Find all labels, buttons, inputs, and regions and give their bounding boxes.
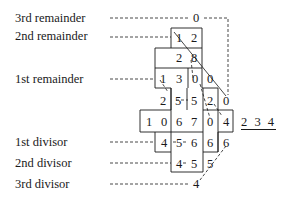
- digit: 0: [220, 94, 232, 108]
- digit: 7: [188, 115, 200, 129]
- digit: 5: [188, 157, 200, 171]
- digit: 4: [220, 115, 232, 129]
- digit: 2: [157, 94, 169, 108]
- digit: 0: [190, 11, 202, 25]
- digit: 6: [173, 115, 185, 129]
- label-2nd-remainder: 2nd remainder: [15, 29, 88, 43]
- digit: 5: [173, 136, 185, 150]
- digit: 1: [143, 115, 155, 129]
- digit: 1: [173, 31, 185, 45]
- label-1st-remainder: 1st remainder: [15, 72, 83, 86]
- digit: 5: [188, 94, 200, 108]
- digit: 5: [172, 94, 184, 108]
- label-1st-divisor: 1st divisor: [15, 135, 67, 149]
- digit: 0: [189, 72, 201, 86]
- digit: 8: [188, 51, 200, 65]
- digit: 4: [190, 177, 202, 191]
- digit: 0: [158, 115, 170, 129]
- digit: 3: [173, 72, 185, 86]
- digit: 4: [158, 136, 170, 150]
- divisor-value: 2 3 4: [241, 115, 276, 130]
- digit: 2: [188, 31, 200, 45]
- label-2nd-divisor: 2nd divisor: [15, 156, 72, 170]
- label-3rd-divisor: 3rd divisor: [15, 177, 70, 191]
- digit: 4: [173, 157, 185, 171]
- digit: 6: [188, 136, 200, 150]
- label-3rd-remainder: 3rd remainder: [15, 11, 85, 25]
- digit: 6: [204, 136, 216, 150]
- digit: 5: [204, 157, 216, 171]
- digit: 2: [204, 94, 216, 108]
- digit: 0: [204, 72, 216, 86]
- digit: 1: [157, 72, 169, 86]
- digit: 2: [173, 51, 185, 65]
- digit: 0: [204, 115, 216, 129]
- digit: 6: [220, 136, 232, 150]
